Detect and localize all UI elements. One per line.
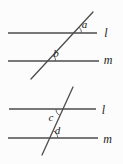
figure-bottom-line-l-label: l	[102, 103, 106, 117]
figure-top-line-m-label: m	[104, 53, 113, 67]
figure-bottom-angle-c-label: c	[49, 111, 54, 123]
figure-top: a b l m	[8, 12, 113, 79]
figure-top-angle-a-label: a	[82, 18, 88, 30]
parallel-lines-transversal-diagram: a b l m c d l m	[0, 0, 123, 164]
figure-bottom-transversal-line	[42, 87, 73, 155]
figure-bottom-angle-d-label: d	[55, 124, 61, 136]
figure-top-line-l-label: l	[104, 26, 108, 40]
figure-bottom-line-m-label: m	[103, 132, 112, 146]
geometry-diagram-canvas: a b l m c d l m	[0, 0, 123, 164]
figure-bottom-angle-c-arc	[56, 109, 60, 115]
figure-bottom: c d l m	[8, 87, 112, 155]
figure-top-angle-b-label: b	[53, 47, 59, 59]
